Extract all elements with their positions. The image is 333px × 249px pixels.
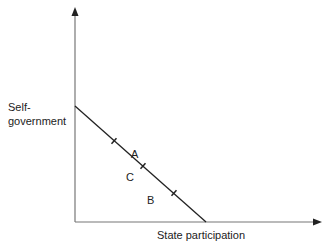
y-axis-label: Self- government — [8, 100, 66, 128]
region-label-a: A — [131, 147, 138, 161]
region-label-b: B — [147, 193, 154, 207]
y-axis-label-line2: government — [8, 114, 66, 128]
region-label-c: C — [126, 170, 134, 184]
trade-off-line — [75, 106, 206, 222]
x-axis-arrow-icon — [313, 219, 322, 226]
y-axis-label-line1: Self- — [8, 100, 66, 114]
x-axis-label: State participation — [157, 228, 245, 242]
y-axis-arrow-icon — [72, 7, 79, 16]
